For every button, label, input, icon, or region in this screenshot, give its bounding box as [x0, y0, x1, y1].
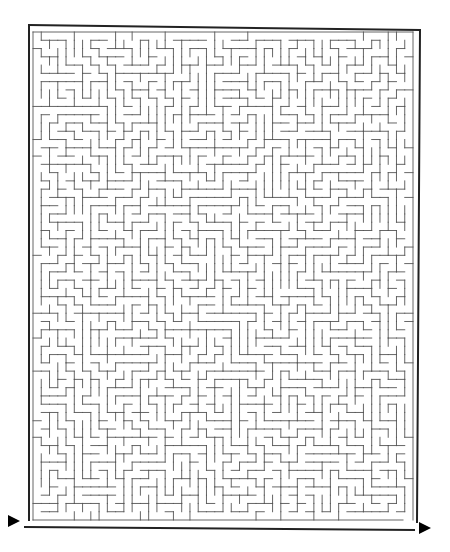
entrance-arrow-icon — [8, 515, 20, 527]
exit-arrow-icon — [419, 522, 431, 534]
maze-walls — [33, 32, 413, 520]
maze-canvas — [0, 0, 450, 552]
